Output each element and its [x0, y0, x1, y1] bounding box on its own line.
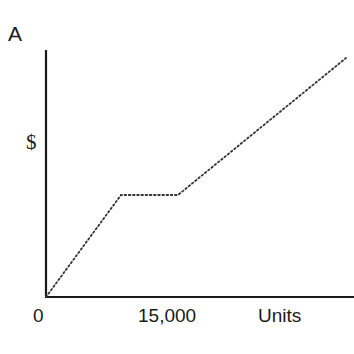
cost-line [46, 58, 346, 297]
chart-plot [0, 0, 354, 354]
